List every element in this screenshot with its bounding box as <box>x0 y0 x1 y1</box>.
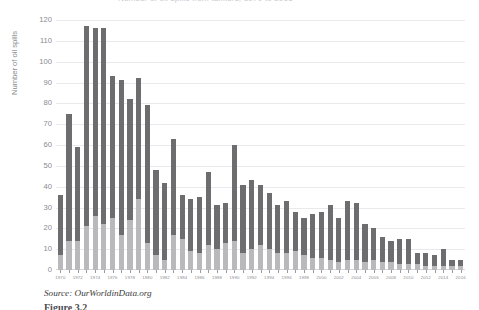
x-tick-label: 2012 <box>421 275 431 280</box>
bar-column[interactable] <box>75 147 80 270</box>
bar-column[interactable] <box>110 76 115 270</box>
bar-column[interactable] <box>310 214 315 270</box>
x-tick-mark <box>139 270 140 273</box>
bar-column[interactable] <box>240 185 245 270</box>
bar-column[interactable] <box>127 99 132 270</box>
bar-column[interactable] <box>319 212 324 270</box>
bar-segment-lower <box>119 235 124 270</box>
x-tick-mark <box>391 270 392 273</box>
bar-column[interactable] <box>232 145 237 270</box>
x-tick-label: 1982 <box>160 275 170 280</box>
x-tick-mark <box>234 270 235 273</box>
bar-column[interactable] <box>153 170 158 270</box>
bar-segment-lower <box>249 249 254 270</box>
chart-title-cropped: Number of oil spills from tankers, 1970 … <box>0 0 479 9</box>
x-tick-mark <box>226 270 227 273</box>
bar-column[interactable] <box>293 212 298 270</box>
x-tick-label: 1986 <box>194 275 204 280</box>
x-tick-label: 1990 <box>229 275 239 280</box>
y-axis-label: Number of oil spills <box>10 31 19 95</box>
x-tick-mark <box>130 270 131 273</box>
bar-column[interactable] <box>145 105 150 270</box>
x-tick-mark <box>339 270 340 273</box>
x-tick-mark <box>443 270 444 273</box>
x-tick-label: 2014 <box>438 275 448 280</box>
bar-column[interactable] <box>197 197 202 270</box>
x-tick-mark <box>156 270 157 273</box>
source-note: Source: OurWorldinData.org <box>44 288 152 298</box>
bar-column[interactable] <box>301 218 306 270</box>
bar-column[interactable] <box>171 139 176 270</box>
bar-column[interactable] <box>180 195 185 270</box>
x-tick-mark <box>330 270 331 273</box>
bar-segment-upper <box>275 205 280 253</box>
x-tick-label: 2006 <box>369 275 379 280</box>
bar-segment-upper <box>75 147 80 241</box>
x-tick-mark <box>269 270 270 273</box>
x-tick-label: 2016 <box>456 275 466 280</box>
bar-column[interactable] <box>423 253 428 270</box>
x-tick-mark <box>321 270 322 273</box>
bar-column[interactable] <box>162 183 167 271</box>
bar-column[interactable] <box>267 193 272 270</box>
bar-column[interactable] <box>101 28 106 270</box>
x-tick-label: 1992 <box>247 275 257 280</box>
bar-column[interactable] <box>188 199 193 270</box>
y-tick-label: 0 <box>6 266 52 274</box>
bar-segment-upper <box>380 237 385 262</box>
bar-segment-lower <box>319 258 324 271</box>
y-tick-label: 80 <box>6 99 52 107</box>
bar-segment-lower <box>267 249 272 270</box>
bar-segment-upper <box>66 114 71 241</box>
bar-column[interactable] <box>93 28 98 270</box>
bar-column[interactable] <box>371 228 376 270</box>
bar-segment-upper <box>197 197 202 253</box>
bar-segment-lower <box>75 241 80 270</box>
bar-column[interactable] <box>432 255 437 270</box>
bar-segment-upper <box>406 239 411 264</box>
bar-column[interactable] <box>58 195 63 270</box>
bar-column[interactable] <box>328 205 333 270</box>
bar-segment-upper <box>345 201 350 259</box>
x-tick-mark <box>78 270 79 273</box>
x-tick-mark <box>95 270 96 273</box>
bar-column[interactable] <box>275 205 280 270</box>
bar-column[interactable] <box>336 218 341 270</box>
bar-column[interactable] <box>249 180 254 270</box>
bar-column[interactable] <box>206 172 211 270</box>
bar-segment-lower <box>380 262 385 270</box>
x-tick-mark <box>113 270 114 273</box>
bar-column[interactable] <box>66 114 71 270</box>
bar-column[interactable] <box>380 237 385 270</box>
x-tick-mark <box>348 270 349 273</box>
x-tick-mark <box>435 270 436 273</box>
bar-segment-upper <box>58 195 63 255</box>
y-tick-label: 50 <box>6 162 52 170</box>
bar-column[interactable] <box>388 241 393 270</box>
bar-column[interactable] <box>397 239 402 270</box>
bar-column[interactable] <box>458 260 463 270</box>
x-tick-mark <box>382 270 383 273</box>
bar-segment-upper <box>293 212 298 252</box>
bar-column[interactable] <box>406 239 411 270</box>
bar-column[interactable] <box>284 201 289 270</box>
x-tick-label: 1974 <box>90 275 100 280</box>
bar-column[interactable] <box>223 203 228 270</box>
bar-column[interactable] <box>345 201 350 270</box>
bar-column[interactable] <box>136 78 141 270</box>
bar-column[interactable] <box>415 253 420 270</box>
x-tick-mark <box>165 270 166 273</box>
bar-column[interactable] <box>449 260 454 270</box>
bar-column[interactable] <box>84 26 89 270</box>
bar-column[interactable] <box>354 203 359 270</box>
bar-segment-upper <box>214 205 219 249</box>
bar-segment-upper <box>284 201 289 253</box>
bar-column[interactable] <box>214 205 219 270</box>
bar-column[interactable] <box>441 249 446 270</box>
figure-caption: Figure 3.2 <box>44 302 87 310</box>
bar-column[interactable] <box>258 185 263 270</box>
bar-column[interactable] <box>119 80 124 270</box>
bar-segment-lower <box>362 262 367 270</box>
bar-segment-lower <box>153 255 158 270</box>
bar-column[interactable] <box>362 224 367 270</box>
